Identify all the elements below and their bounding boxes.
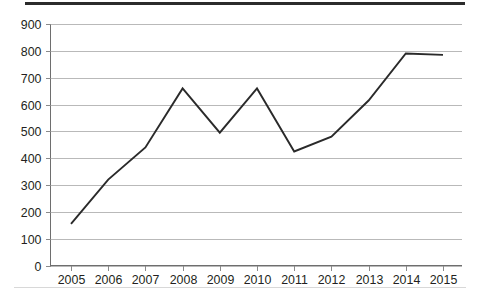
x-tick-label-2015: 2015 <box>430 273 458 287</box>
chart-page: 0100200300400500600700800900 20052006200… <box>0 0 479 296</box>
x-tick-label-2007: 2007 <box>132 273 160 287</box>
y-tick-label-500: 500 <box>21 125 42 139</box>
y-tick-label-200: 200 <box>21 206 42 220</box>
x-tick-label-2014: 2014 <box>393 273 421 287</box>
y-axis-group: 0100200300400500600700800900 <box>21 18 51 274</box>
x-tick-label-2006: 2006 <box>95 273 123 287</box>
x-tick-label-2009: 2009 <box>207 273 235 287</box>
bottom-divider-rule <box>14 287 466 288</box>
y-tick-marks <box>46 25 51 267</box>
y-tick-label-900: 900 <box>21 18 42 32</box>
y-tick-label-800: 800 <box>21 45 42 59</box>
x-tick-label-2005: 2005 <box>58 273 86 287</box>
x-tick-labels: 2005200620072008200920102011201220132014… <box>58 273 458 287</box>
y-tick-label-100: 100 <box>21 233 42 247</box>
x-tick-label-2010: 2010 <box>244 273 272 287</box>
y-tick-label-600: 600 <box>21 99 42 113</box>
chart-svg: 0100200300400500600700800900 20052006200… <box>0 0 479 296</box>
y-tick-label-300: 300 <box>21 179 42 193</box>
y-tick-label-400: 400 <box>21 152 42 166</box>
x-tick-label-2013: 2013 <box>356 273 384 287</box>
x-tick-label-2008: 2008 <box>170 273 198 287</box>
x-tick-label-2012: 2012 <box>318 273 346 287</box>
x-tick-label-2011: 2011 <box>281 273 308 287</box>
y-tick-labels: 0100200300400500600700800900 <box>21 18 42 274</box>
data-series-group <box>71 54 443 224</box>
y-tick-label-700: 700 <box>21 72 42 86</box>
x-axis-group: 2005200620072008200920102011201220132014… <box>51 266 463 287</box>
y-tick-label-0: 0 <box>35 260 42 274</box>
line-chart: 0100200300400500600700800900 20052006200… <box>0 0 479 296</box>
data-line-series-1 <box>71 54 443 224</box>
